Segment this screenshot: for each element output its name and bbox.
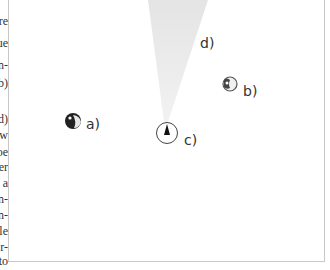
figure-canvas: d) b) a) c)	[0, 0, 330, 270]
label-b: b)	[243, 83, 257, 99]
view-cone	[148, 0, 208, 122]
label-a: a)	[86, 116, 100, 132]
object-c-icon	[157, 123, 178, 144]
object-a-icon	[65, 113, 81, 129]
label-d: d)	[200, 35, 214, 51]
label-c: c)	[184, 132, 197, 148]
object-b-icon	[223, 77, 237, 91]
